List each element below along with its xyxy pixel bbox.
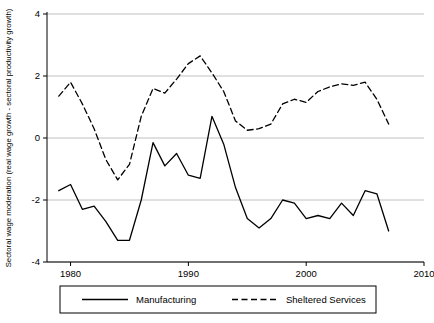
y-tick-label: 4 — [35, 8, 40, 19]
series-line-2 — [59, 56, 389, 180]
y-tick-label: 0 — [35, 132, 40, 143]
line-chart: -4-2024 1980199020002010 Sectoral wage m… — [0, 0, 434, 323]
axes — [47, 12, 424, 262]
legend-label-1: Manufacturing — [136, 294, 196, 305]
x-tick-label: 1980 — [60, 268, 81, 279]
y-tick-label: -2 — [32, 194, 40, 205]
series-line-1 — [59, 116, 389, 240]
data-series — [59, 56, 389, 240]
x-tick-label: 2010 — [413, 268, 434, 279]
chart-legend: ManufacturingSheltered Services — [60, 286, 376, 313]
y-axis-label: Sectoral wage moderation (real wage grow… — [4, 8, 13, 267]
gridlines — [47, 14, 424, 262]
legend-label-2: Sheltered Services — [286, 294, 366, 305]
x-tick-labels: 1980199020002010 — [60, 262, 434, 279]
y-tick-label: -4 — [32, 256, 40, 267]
y-tick-labels: -4-2024 — [32, 8, 47, 267]
chart-container: -4-2024 1980199020002010 Sectoral wage m… — [0, 0, 434, 323]
x-tick-label: 1990 — [178, 268, 199, 279]
y-axis-label-text: Sectoral wage moderation (real wage grow… — [4, 8, 13, 267]
x-tick-label: 2000 — [296, 268, 317, 279]
y-tick-label: 2 — [35, 70, 40, 81]
